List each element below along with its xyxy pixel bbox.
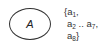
set-elements: {a1, a2 .. a7, a8} — [64, 6, 98, 42]
set-line-1: {a1, — [64, 6, 98, 18]
set-line-3: a8} — [64, 30, 98, 42]
set-ellipse: A — [9, 8, 51, 40]
set-label: A — [10, 9, 50, 39]
element-separator: , — [95, 18, 98, 29]
close-brace: } — [76, 30, 79, 41]
element-separator: , — [76, 6, 79, 17]
set-line-2: a2 .. a7, — [64, 18, 98, 30]
element-separator: .. — [76, 18, 87, 29]
